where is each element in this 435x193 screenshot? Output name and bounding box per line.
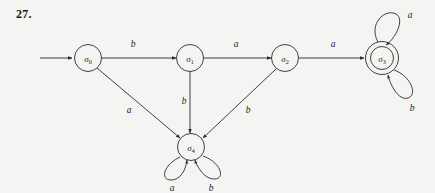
edge-label-s2-s3: a <box>331 39 336 49</box>
edge-s2-s4 <box>203 69 276 138</box>
state-node-s0[interactable]: σ0 <box>75 45 102 72</box>
self-loop-s4-b <box>195 156 221 179</box>
state-subscript-s3: 3 <box>383 58 386 65</box>
state-node-s2[interactable]: σ2 <box>272 45 299 72</box>
state-subscript-s0: 0 <box>89 58 92 65</box>
state-subscript-s4: 4 <box>192 147 195 154</box>
state-diagram-svg: σ0 σ1 σ2 σ3 σ4 b a a a b b a b <box>0 0 435 193</box>
loop-label-s4-a: a <box>170 183 175 193</box>
state-node-s1[interactable]: σ1 <box>177 45 204 72</box>
edge-label-s1-s2: a <box>234 39 239 49</box>
state-label-s0: σ0 <box>84 54 92 65</box>
state-label-s4: σ4 <box>187 143 195 154</box>
edge-label-s2-s4: b <box>246 105 251 115</box>
edge-label-s0-s1: b <box>131 39 136 49</box>
state-label-s2: σ2 <box>281 54 289 65</box>
self-loop-s3-b <box>388 70 413 98</box>
state-label-s3: σ3 <box>378 54 386 65</box>
edge-s0-s4 <box>97 68 180 138</box>
automaton-figure: 27. <box>0 0 435 193</box>
exercise-number: 27. <box>16 7 32 22</box>
state-node-s3[interactable]: σ3 <box>366 42 399 75</box>
self-loop-s3-a <box>375 13 400 45</box>
loop-label-s3-b: b <box>410 103 415 113</box>
state-subscript-s1: 1 <box>191 58 194 65</box>
state-label-s1: σ1 <box>186 54 194 65</box>
self-loop-s4-a <box>165 157 187 180</box>
state-node-s4[interactable]: σ4 <box>178 134 205 161</box>
loop-label-s4-b: b <box>209 183 214 193</box>
loop-label-s3-a: a <box>408 10 413 20</box>
edge-label-s1-s4: b <box>182 96 187 106</box>
edge-label-s0-s4: a <box>127 105 132 115</box>
state-subscript-s2: 2 <box>286 58 289 65</box>
